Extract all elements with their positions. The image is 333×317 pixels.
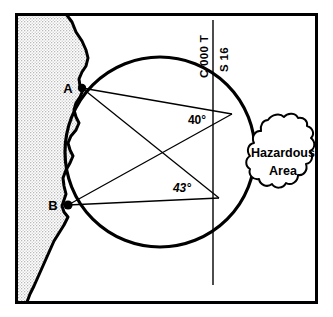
station-point-b-marker (63, 200, 72, 209)
angle-label-upper: 40° (188, 113, 206, 127)
speed-label: S 16 (218, 47, 230, 72)
station-point-a-marker (78, 84, 86, 92)
diagram-canvas: Hazardous Area A B 40° 43° C 000 T S 16 (0, 0, 333, 317)
hazard-label-line2: Area (269, 164, 298, 178)
course-bearing-label: C 000 T (198, 35, 210, 78)
station-point-b-label: B (48, 198, 57, 213)
angle-label-lower: 43° (172, 181, 191, 195)
station-point-a-label: A (63, 81, 73, 96)
navigation-diagram: Hazardous Area A B 40° 43° C 000 T S 16 (0, 0, 333, 317)
hazard-label-line1: Hazardous (251, 146, 315, 160)
